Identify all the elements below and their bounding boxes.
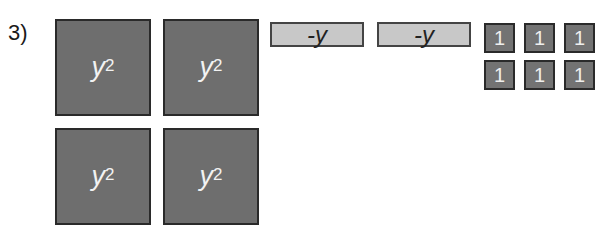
y-squared-tile: y2 bbox=[163, 128, 259, 225]
tile-exponent: 2 bbox=[105, 165, 114, 185]
y-squared-tile: y2 bbox=[55, 19, 151, 116]
y-squared-tile: y2 bbox=[55, 128, 151, 225]
tile-exponent: 2 bbox=[105, 56, 114, 76]
neg-y-tile: -y bbox=[377, 22, 471, 47]
tile-var: y bbox=[200, 161, 214, 192]
tile-exponent: 2 bbox=[213, 165, 222, 185]
tile-var: y bbox=[92, 52, 106, 83]
unit-tile: 1 bbox=[484, 60, 515, 90]
unit-tile: 1 bbox=[564, 60, 595, 90]
tile-var: y bbox=[92, 161, 106, 192]
unit-tile: 1 bbox=[564, 23, 595, 53]
unit-tile: 1 bbox=[524, 23, 555, 53]
y-squared-tile: y2 bbox=[163, 19, 259, 116]
tile-var: y bbox=[200, 52, 214, 83]
unit-tile: 1 bbox=[484, 23, 515, 53]
neg-y-tile: -y bbox=[270, 22, 364, 47]
tile-exponent: 2 bbox=[213, 56, 222, 76]
unit-tile: 1 bbox=[524, 60, 555, 90]
problem-number: 3) bbox=[8, 20, 28, 46]
